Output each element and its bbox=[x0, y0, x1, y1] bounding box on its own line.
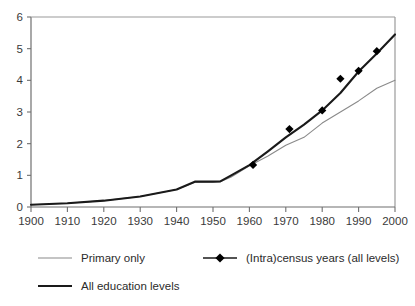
x-tick-label: 1910 bbox=[55, 215, 81, 227]
x-tick-label: 1990 bbox=[346, 215, 372, 227]
chart-canvas: 0123456 19001910192019301940195019601970… bbox=[0, 0, 415, 306]
x-tick-label: 2000 bbox=[382, 215, 408, 227]
legend-diamond-icon bbox=[215, 253, 224, 262]
y-tick-label: 0 bbox=[17, 201, 23, 213]
legend-label-all-education-levels: All education levels bbox=[81, 280, 180, 292]
legend-label-intracensus-years: (Intra)census years (all levels) bbox=[246, 252, 400, 264]
legend-item-primary-only[interactable]: Primary only bbox=[38, 252, 145, 264]
y-tick-label: 3 bbox=[17, 106, 23, 118]
chart-legend: Primary only (Intra)census years (all le… bbox=[38, 252, 400, 292]
y-tick-label: 1 bbox=[17, 169, 23, 181]
y-axis-tick-labels: 0123456 bbox=[17, 11, 24, 213]
legend-item-intracensus-years[interactable]: (Intra)census years (all levels) bbox=[203, 252, 400, 264]
series-primary-only bbox=[31, 80, 395, 204]
y-tick-label: 4 bbox=[17, 74, 24, 86]
x-axis-ticks bbox=[31, 207, 395, 212]
census-marker bbox=[373, 47, 381, 55]
x-tick-label: 1970 bbox=[273, 215, 299, 227]
x-tick-label: 1960 bbox=[237, 215, 263, 227]
series-all-education-levels bbox=[31, 34, 395, 204]
legend-label-primary-only: Primary only bbox=[81, 252, 145, 264]
x-axis-tick-labels: 1900191019201930194019501960197019801990… bbox=[18, 215, 408, 227]
y-tick-label: 2 bbox=[17, 138, 23, 150]
x-tick-label: 1920 bbox=[91, 215, 117, 227]
x-tick-label: 1950 bbox=[200, 215, 226, 227]
y-tick-label: 6 bbox=[17, 11, 23, 23]
x-tick-label: 1980 bbox=[309, 215, 335, 227]
x-tick-label: 1930 bbox=[127, 215, 153, 227]
census-marker bbox=[336, 75, 344, 83]
legend-item-all-education-levels[interactable]: All education levels bbox=[38, 280, 180, 292]
y-tick-label: 5 bbox=[17, 43, 23, 55]
x-tick-label: 1940 bbox=[164, 215, 190, 227]
x-tick-label: 1900 bbox=[18, 215, 44, 227]
chart-figure: 0123456 19001910192019301940195019601970… bbox=[0, 0, 415, 306]
